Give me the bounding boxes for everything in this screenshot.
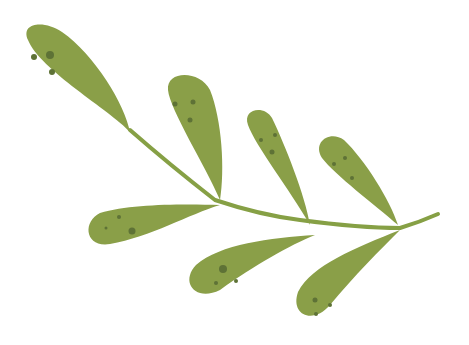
leaf-spot bbox=[188, 118, 193, 123]
leaf-branch-svg bbox=[0, 0, 469, 345]
leaf-spot bbox=[117, 215, 121, 219]
leaf-spot bbox=[31, 54, 37, 60]
leaf-spot bbox=[191, 100, 196, 105]
leaf-spot bbox=[214, 281, 218, 285]
leaf-spot bbox=[270, 150, 275, 155]
leaf-spot bbox=[328, 303, 332, 307]
leaf-spot bbox=[219, 265, 227, 273]
leaf-spot bbox=[259, 138, 263, 142]
leaf-spot bbox=[273, 133, 277, 137]
leaf-spot bbox=[105, 227, 108, 230]
leaf-branch-illustration bbox=[0, 0, 469, 345]
leaf-spot bbox=[343, 156, 347, 160]
leaf-spot bbox=[173, 102, 178, 107]
leaf-spot bbox=[314, 312, 318, 316]
leaf-spot bbox=[313, 298, 318, 303]
leaf-spot bbox=[46, 51, 54, 59]
leaf-spot bbox=[49, 69, 55, 75]
leaf-spot bbox=[332, 162, 336, 166]
leaf-spot bbox=[129, 228, 136, 235]
leaf-spot bbox=[350, 176, 354, 180]
leaf-spot bbox=[234, 279, 238, 283]
